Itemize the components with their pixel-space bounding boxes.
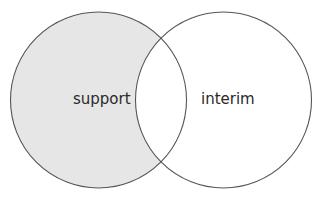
venn-diagram: support interim (0, 0, 322, 199)
set-support-label: support (73, 90, 131, 108)
set-interim-label: interim (201, 90, 255, 108)
